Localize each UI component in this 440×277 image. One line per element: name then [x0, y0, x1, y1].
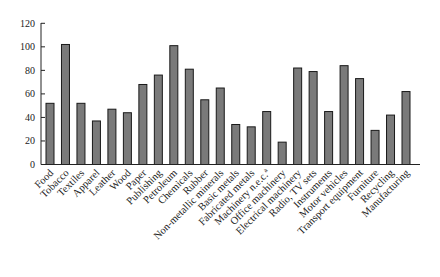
bar-chart: 020406080100120 FoodTobaccoTextilesAppar…	[0, 0, 440, 277]
bar	[170, 46, 178, 165]
bars	[46, 44, 410, 164]
bar	[77, 103, 85, 164]
y-tick-label: 0	[30, 159, 35, 170]
bar	[356, 79, 364, 165]
bar	[108, 109, 116, 164]
bar	[247, 127, 255, 165]
y-tick-label: 80	[25, 65, 35, 76]
bar	[294, 68, 302, 164]
bar	[309, 72, 317, 165]
bar	[325, 112, 333, 165]
y-tick-label: 120	[20, 18, 35, 29]
y-tick-label: 40	[25, 112, 35, 123]
bar	[123, 113, 131, 165]
y-tick-label: 20	[25, 135, 35, 146]
y-tick-label: 100	[20, 41, 35, 52]
bar	[46, 103, 54, 164]
bar	[185, 69, 193, 164]
bar	[154, 75, 162, 164]
bar	[216, 88, 224, 164]
bar	[340, 66, 348, 165]
bar	[61, 44, 69, 164]
x-axis-labels: FoodTobaccoTextilesApparelLeatherWoodPap…	[32, 166, 412, 242]
bar	[92, 121, 100, 165]
bar	[278, 142, 286, 164]
bar	[139, 84, 147, 164]
bar	[263, 112, 271, 165]
bar	[201, 100, 209, 165]
bar	[402, 92, 410, 165]
bar	[371, 130, 379, 164]
bar	[232, 124, 240, 164]
bar	[387, 115, 395, 164]
y-tick-label: 60	[25, 88, 35, 99]
